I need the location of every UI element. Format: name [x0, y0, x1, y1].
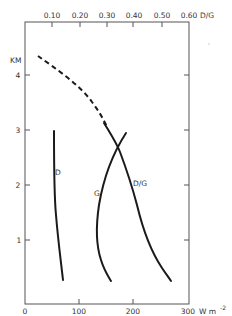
left-tick-label: 4 — [16, 71, 21, 80]
right-axis — [184, 75, 189, 240]
y-axis-label: KM — [10, 56, 21, 65]
bottom-tick-label: 0 — [23, 307, 28, 316]
curve-g-label: G — [94, 189, 100, 198]
bottom-axis: 0 100 200 300 W m -2 — [23, 299, 227, 316]
top-axis-unit: D/G — [200, 11, 214, 20]
left-tick-label: 3 — [16, 126, 21, 135]
top-tick-label: 0.60 — [181, 11, 198, 20]
top-tick-label: 0.10 — [44, 11, 61, 20]
top-tick-label: 0.20 — [72, 11, 89, 20]
left-tick-label: 1 — [17, 236, 22, 245]
curve-dg-dashed — [38, 56, 107, 127]
curve-d — [54, 131, 63, 280]
chart: 0.10 0.20 0.30 0.40 0.50 0.60 D/G 0 100 … — [0, 0, 232, 316]
curve-dg-label: D/G — [133, 179, 147, 188]
top-tick-label: 0.30 — [99, 11, 116, 20]
bottom-tick-label: 200 — [126, 307, 141, 316]
curve-d-label: D — [55, 168, 61, 177]
plot-frame — [25, 22, 189, 304]
scan-speck — [208, 43, 209, 44]
left-tick-label: 2 — [16, 181, 21, 190]
bottom-tick-label: 100 — [72, 307, 87, 316]
bottom-axis-exponent: -2 — [220, 304, 226, 311]
top-tick-label: 0.40 — [126, 11, 143, 20]
curve-dg-solid — [104, 123, 171, 281]
bottom-tick-label: 300 — [181, 307, 196, 316]
top-tick-label: 0.50 — [154, 11, 171, 20]
left-axis: KM 4 3 2 1 — [10, 56, 30, 245]
bottom-axis-unit: W m — [199, 307, 216, 316]
